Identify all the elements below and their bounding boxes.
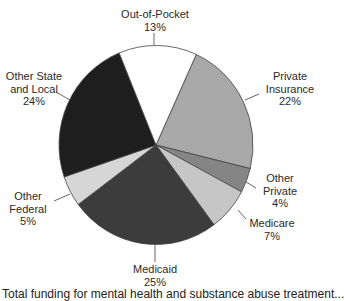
- label-out-of-pocket: Out-of-Pocket 13%: [121, 8, 189, 33]
- label-medicare: Medicare 7%: [249, 217, 294, 242]
- label-text: and Local: [6, 83, 62, 96]
- label-value: 22%: [266, 95, 314, 108]
- label-text: Private: [263, 185, 297, 198]
- pie-slices: [59, 45, 253, 244]
- label-text: Medicare: [249, 217, 294, 230]
- leader-medicare: [238, 210, 246, 219]
- leader-other-private: [246, 182, 256, 188]
- label-other-state-local: Other State and Local 24%: [6, 70, 62, 108]
- label-text: Federal: [9, 203, 46, 216]
- label-value: 13%: [121, 21, 189, 34]
- label-text: Other: [263, 172, 297, 185]
- figure-caption: Total funding for mental health and subs…: [2, 287, 344, 301]
- label-value: 4%: [263, 197, 297, 210]
- label-value: 24%: [6, 95, 62, 108]
- label-value: 5%: [9, 215, 46, 228]
- leader-other-federal: [54, 194, 70, 201]
- label-text: Medicaid: [133, 263, 177, 276]
- label-private-insurance: Private Insurance 22%: [266, 70, 314, 108]
- label-text: Insurance: [266, 83, 314, 96]
- label-medicaid: Medicaid 25%: [133, 263, 177, 288]
- label-other-private: Other Private 4%: [263, 172, 297, 210]
- leader-private-insurance: [245, 94, 259, 100]
- label-value: 7%: [249, 230, 294, 243]
- label-text: Out-of-Pocket: [121, 8, 189, 21]
- label-text: Other State: [6, 70, 62, 83]
- label-text: Other: [9, 190, 46, 203]
- label-text: Private: [266, 70, 314, 83]
- label-other-federal: Other Federal 5%: [9, 190, 46, 228]
